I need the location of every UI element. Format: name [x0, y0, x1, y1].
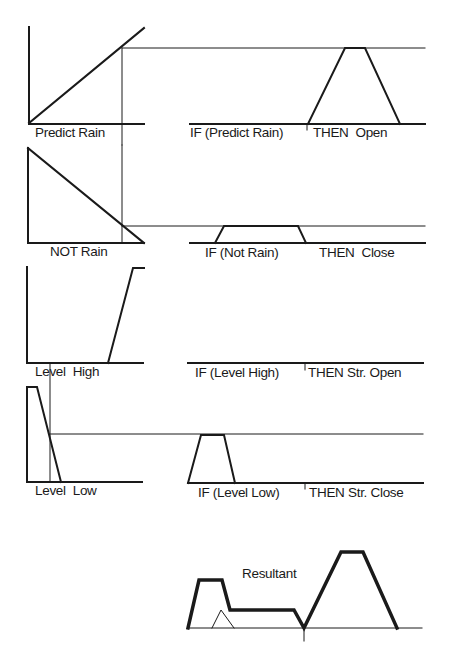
- rule-3-if-label: IF (Level High): [195, 366, 279, 380]
- rule-4-if-label: IF (Level Low): [198, 486, 279, 500]
- membership-ramp-down: [28, 148, 144, 243]
- open-membership-trapezoid: [308, 48, 400, 124]
- rule-1-then-label: THEN Open: [313, 126, 387, 140]
- str-close-membership-trapezoid: [188, 435, 235, 483]
- not-rain-membership-chart: [28, 148, 144, 243]
- rule-close-output-chart: [190, 226, 425, 243]
- input-label-level-high: Level High: [35, 365, 99, 379]
- close-membership-clipped-trapezoid: [215, 226, 306, 243]
- level-high-membership-chart: [27, 267, 144, 363]
- membership-ramp-up: [108, 268, 144, 363]
- resultant-chart: [188, 552, 422, 641]
- input-label-not-rain: NOT Rain: [50, 245, 107, 259]
- resultant-envelope: [188, 552, 397, 628]
- rule-str-close-output-chart: [188, 435, 423, 489]
- rule-2-then-label: THEN Close: [319, 246, 394, 260]
- fuzzy-diagram-canvas: [0, 0, 452, 662]
- underlying-close-shape: [212, 610, 234, 628]
- input-label-level-low: Level Low: [35, 484, 97, 498]
- rule-open-output-chart: [190, 48, 425, 130]
- resultant-label: Resultant: [242, 567, 296, 581]
- rule-4-then-label: THEN Str. Close: [309, 486, 404, 500]
- predict-rain-membership-chart: [29, 27, 144, 124]
- rule-3-then-label: THEN Str. Open: [308, 366, 401, 380]
- rule-1-if-label: IF (Predict Rain): [190, 126, 283, 140]
- rule-2-if-label: IF (Not Rain): [205, 246, 278, 260]
- membership-ramp-up: [29, 28, 144, 123]
- input-label-predict-rain: Predict Rain: [35, 126, 105, 140]
